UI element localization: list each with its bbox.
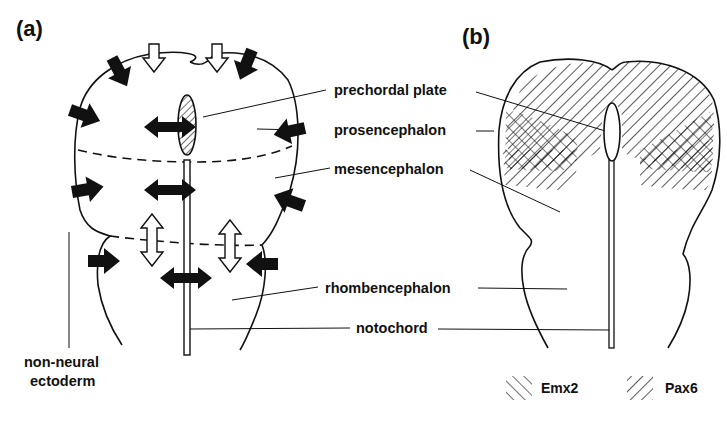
filled-arrow-icon — [269, 183, 308, 218]
legend-pax6-label: Pax6 — [665, 380, 698, 396]
legend-emx2-label: Emx2 — [541, 380, 579, 396]
notochord-b — [609, 160, 614, 348]
label-ectoderm: ectoderm — [30, 373, 95, 389]
label-notochord: notochord — [356, 320, 428, 336]
panel-b-label: (b) — [462, 24, 490, 49]
prechordal-plate-b — [604, 103, 620, 161]
label-prosencephalon: prosencephalon — [334, 122, 446, 138]
panel-a-label: (a) — [16, 16, 43, 41]
legend-emx2-swatch — [506, 376, 532, 400]
filled-arrow-icon — [88, 248, 120, 274]
label-rhombencephalon: rhombencephalon — [325, 280, 451, 296]
filled-arrow-icon — [246, 251, 278, 277]
open-arrow-top-right-icon — [206, 44, 228, 72]
filled-arrow-icon — [228, 45, 264, 84]
legend-pax6-swatch — [627, 376, 653, 400]
filled-arrow-icon — [66, 98, 105, 133]
filled-arrow-icon — [271, 115, 308, 147]
figure-canvas: (a) non-neural ectoderm prechordal plate… — [0, 0, 727, 426]
legend: Emx2 Pax6 — [506, 376, 698, 400]
label-prechordal-plate: prechordal plate — [334, 82, 447, 98]
label-mesencephalon: mesencephalon — [334, 161, 444, 177]
label-non-neural: non-neural — [24, 354, 99, 370]
open-arrow-top-left-icon — [143, 44, 165, 72]
